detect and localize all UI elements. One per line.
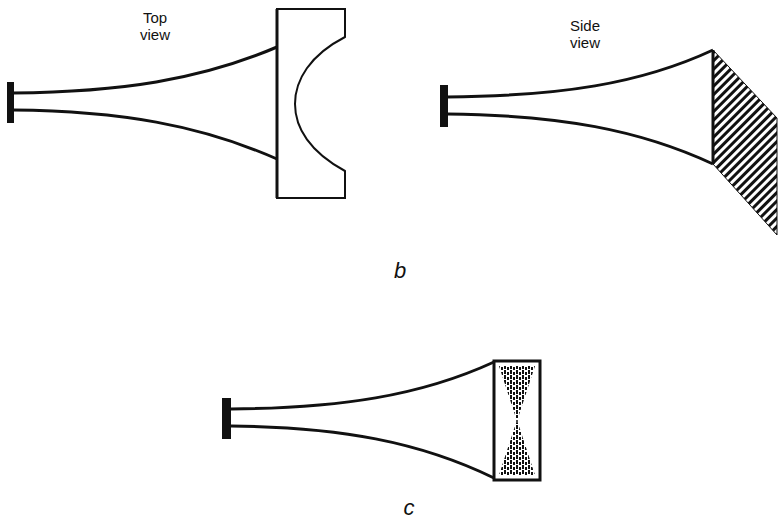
top-view-label-line2: view	[125, 26, 185, 43]
horn-diagram: Top view Side view b c	[0, 0, 781, 525]
figure-c-horn-upper-wall	[231, 362, 494, 409]
top-view-label: Top view	[125, 9, 185, 44]
top-view-label-line1: Top	[125, 9, 185, 26]
top-view-flange	[7, 82, 14, 123]
figure-b-label: b	[385, 258, 415, 283]
side-view-label-line1: Side	[555, 17, 615, 34]
figure-c-horn	[222, 361, 540, 480]
side-view-hatched-lens	[713, 50, 777, 235]
figure-c-label: c	[394, 495, 424, 520]
top-view-lens	[277, 9, 345, 198]
side-view-label: Side view	[555, 17, 615, 52]
top-view-horn-lower-wall	[13, 110, 277, 159]
side-view-horn-lower-wall	[447, 114, 713, 164]
side-view-horn	[440, 50, 777, 235]
side-view-label-line2: view	[555, 34, 615, 51]
figure-c-flange	[222, 398, 231, 439]
figure-c-horn-lower-wall	[231, 426, 494, 478]
top-view-horn-upper-wall	[13, 47, 277, 93]
side-view-flange	[440, 85, 448, 127]
side-view-horn-upper-wall	[447, 50, 713, 97]
